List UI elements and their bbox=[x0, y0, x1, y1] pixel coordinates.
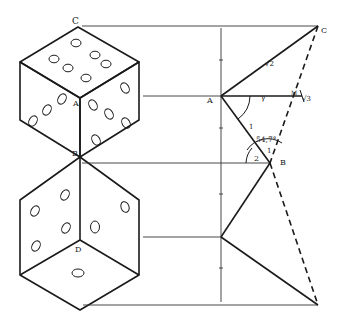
label-edge-1: 1 bbox=[249, 123, 253, 131]
label-C-right: C bbox=[321, 26, 327, 35]
dice-diagram: C A B D C A B M √2 √3 1 54,7° 1 2 γ bbox=[0, 0, 342, 321]
label-angle-value: 54,7° bbox=[256, 135, 277, 144]
label-B-right: B bbox=[280, 158, 286, 167]
label-A-right: A bbox=[206, 96, 213, 105]
label-A-die: A bbox=[72, 99, 79, 108]
label-C-top: C bbox=[72, 16, 79, 26]
label-gamma: γ bbox=[261, 94, 265, 102]
label-angle-2: 2 bbox=[254, 154, 259, 163]
label-sqrt3: √3 bbox=[302, 95, 311, 103]
edge-AB bbox=[221, 96, 270, 163]
top-die bbox=[20, 27, 139, 157]
diagram-canvas: C A B D C A B M √2 √3 1 54,7° 1 2 γ bbox=[0, 0, 342, 321]
label-sqrt2: √2 bbox=[265, 60, 274, 68]
bottom-die bbox=[20, 157, 139, 310]
label-angle-1: 1 bbox=[267, 147, 271, 155]
label-M: M bbox=[291, 89, 297, 96]
label-B-die: B bbox=[72, 149, 78, 158]
label-D-die: D bbox=[75, 245, 81, 254]
